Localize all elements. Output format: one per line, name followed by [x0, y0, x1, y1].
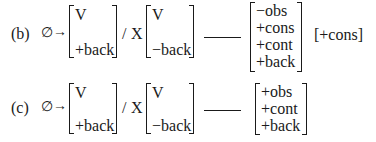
environment-blank	[204, 37, 241, 38]
arrow-icon: →	[53, 99, 67, 113]
matrix-cell: +cons	[256, 20, 294, 36]
slash: /	[122, 26, 126, 42]
matrix-cell: +back	[75, 118, 114, 134]
matrix-cell: −back	[152, 118, 191, 134]
arrow-icon: →	[53, 25, 67, 39]
target-matrix: V +back	[69, 83, 117, 134]
matrix-cell: +cont	[261, 101, 298, 117]
matrix-cell: +back	[256, 54, 295, 70]
context-symbol: X	[131, 26, 143, 42]
empty-set-symbol: ∅	[41, 100, 53, 114]
context-symbol: X	[131, 100, 143, 116]
context-matrix: V −back	[146, 83, 194, 134]
matrix-cell: −back	[152, 42, 191, 58]
matrix-cell: +cont	[256, 37, 293, 53]
right-matrix: −obs +cons +cont +back	[250, 2, 302, 72]
empty-set-symbol: ∅	[41, 26, 53, 40]
rule-label: (b)	[11, 26, 30, 42]
matrix-cell: V	[75, 7, 87, 23]
right-matrix: +obs +cont +back	[255, 83, 307, 135]
slash: /	[122, 100, 126, 116]
target-matrix: V +back	[69, 5, 117, 58]
environment-blank	[204, 110, 241, 111]
matrix-cell: +back	[261, 118, 300, 134]
extra-feature: [+cons]	[314, 27, 363, 43]
matrix-cell: −obs	[256, 3, 287, 19]
matrix-cell: +back	[75, 42, 114, 58]
context-matrix: V −back	[146, 5, 194, 58]
rule-label: (c)	[11, 100, 29, 116]
matrix-cell: V	[75, 85, 87, 101]
matrix-cell: V	[152, 7, 164, 23]
matrix-cell: +obs	[261, 84, 292, 100]
matrix-cell: V	[152, 85, 164, 101]
